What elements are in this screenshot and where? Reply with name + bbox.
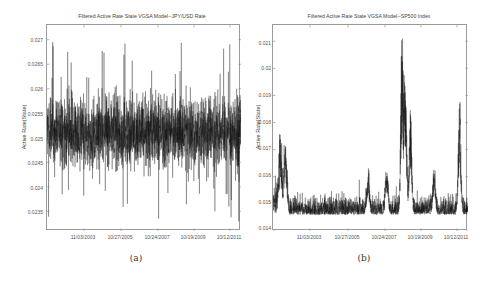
x-tick-label: 10/27/2005 bbox=[334, 234, 359, 240]
y-tick-label: 0.027 bbox=[13, 37, 43, 43]
y-tick-label: 0.015 bbox=[241, 199, 271, 205]
y-tick-label: 0.014 bbox=[241, 225, 271, 231]
y-tick-label: 0.0265 bbox=[13, 61, 43, 67]
line-series bbox=[47, 25, 241, 231]
y-tick-label: 0.016 bbox=[241, 172, 271, 178]
chart-title: Filtered Active Rate State VGSA Model--S… bbox=[308, 13, 431, 19]
y-tick-label: 0.0245 bbox=[13, 160, 43, 166]
y-tick-label: 0.017 bbox=[241, 145, 271, 151]
x-tick-label: 10/19/2009 bbox=[180, 234, 205, 240]
y-tick-label: 0.021 bbox=[241, 40, 271, 46]
x-tick-label: 10/24/2007 bbox=[144, 234, 169, 240]
chart-title: Filtered Active Rate State VGSA Model--J… bbox=[78, 13, 205, 19]
y-tick-label: 0.026 bbox=[13, 86, 43, 92]
figure-caption: (a) bbox=[130, 253, 142, 263]
x-tick-label: 10/19/2009 bbox=[407, 234, 432, 240]
panel-a: Filtered Active Rate State VGSA Model--J… bbox=[0, 0, 246, 281]
y-tick-label: 0.018 bbox=[241, 119, 271, 125]
figure-caption: (b) bbox=[358, 253, 371, 263]
y-tick-label: 0.0255 bbox=[13, 111, 43, 117]
y-tick-label: 0.024 bbox=[13, 185, 43, 191]
x-tick-label: 10/27/2005 bbox=[107, 234, 132, 240]
plot-area bbox=[272, 24, 467, 230]
x-tick-label: 10/12/2011 bbox=[444, 234, 469, 240]
y-tick-label: 0.02 bbox=[241, 65, 271, 71]
x-tick-label: 10/24/2007 bbox=[371, 234, 396, 240]
y-tick-label: 0.025 bbox=[13, 136, 43, 142]
plot-area bbox=[46, 24, 240, 230]
line-series bbox=[273, 25, 468, 231]
panel-b: Filtered Active Rate State VGSA Model--S… bbox=[246, 0, 492, 281]
y-tick-label: 0.0235 bbox=[13, 209, 43, 215]
x-tick-label: 11/03/2003 bbox=[297, 234, 322, 240]
x-tick-label: 10/12/2011 bbox=[217, 234, 242, 240]
y-tick-label: 0.019 bbox=[241, 92, 271, 98]
y-axis-label: Active Rate(State) bbox=[255, 105, 261, 150]
x-tick-label: 11/03/2003 bbox=[71, 234, 96, 240]
